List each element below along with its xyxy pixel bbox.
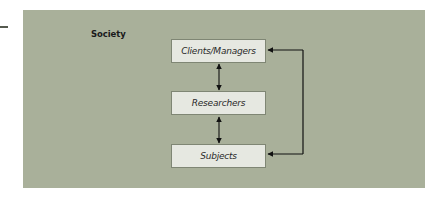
node-subjects: Subjects <box>171 144 266 168</box>
node-researchers-label: Researchers <box>192 98 246 108</box>
margin-dash <box>0 26 8 28</box>
society-label: Society <box>91 29 126 39</box>
node-subjects-label: Subjects <box>200 151 237 161</box>
node-clients-managers-label: Clients/Managers <box>181 46 256 56</box>
node-researchers: Researchers <box>171 91 266 115</box>
node-clients-managers: Clients/Managers <box>171 39 266 63</box>
